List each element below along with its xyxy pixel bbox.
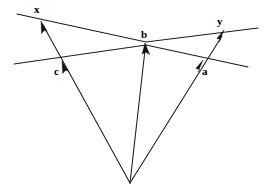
label-b: b: [141, 29, 147, 40]
arrow-head-b: [142, 43, 150, 55]
lower-line: [14, 45, 248, 67]
vector-diagram-canvas: [0, 0, 268, 193]
label-x: x: [34, 4, 40, 15]
label-a: a: [202, 66, 208, 77]
vector-diagram-figure: x y b c a: [0, 0, 268, 193]
label-c: c: [54, 66, 59, 77]
arrow-head-c: [62, 61, 69, 74]
label-y: y: [217, 16, 223, 27]
arrow-head-y: [217, 30, 224, 42]
